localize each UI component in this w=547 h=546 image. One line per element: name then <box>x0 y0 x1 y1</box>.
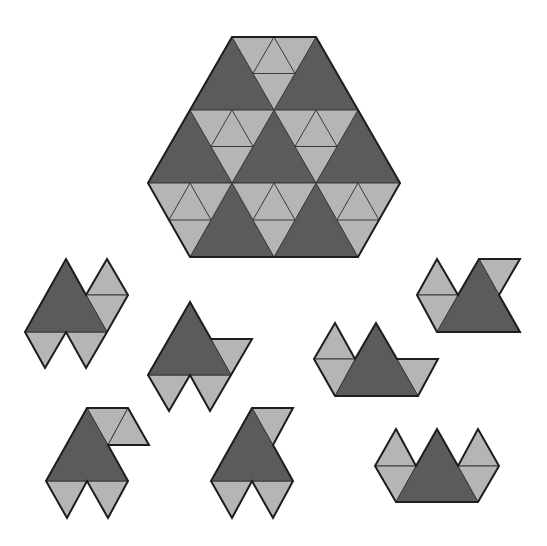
hexagon-target-shape <box>148 37 400 257</box>
light-triangle <box>86 259 128 295</box>
piece-3[interactable] <box>417 259 520 332</box>
light-triangle <box>66 332 107 368</box>
piece-1[interactable] <box>25 259 128 368</box>
light-triangle <box>375 429 416 466</box>
light-triangle <box>46 481 87 518</box>
light-triangle <box>314 323 355 359</box>
light-triangle <box>148 375 190 411</box>
light-triangle <box>252 481 293 518</box>
piece-6[interactable] <box>211 408 293 518</box>
piece-7[interactable] <box>375 429 499 502</box>
light-triangle <box>417 259 458 295</box>
light-triangle <box>211 481 252 518</box>
piece-4[interactable] <box>314 323 438 396</box>
puzzle-pieces <box>25 259 520 518</box>
puzzle-canvas <box>0 0 547 546</box>
piece-2[interactable] <box>148 302 252 411</box>
piece-5[interactable] <box>46 408 149 518</box>
light-triangle <box>190 375 231 411</box>
light-triangle <box>87 481 128 518</box>
light-triangle <box>458 429 499 466</box>
light-triangle <box>25 332 66 368</box>
